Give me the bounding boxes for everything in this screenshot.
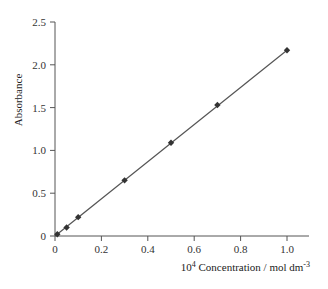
x-tick-label: 0.8 [234,243,248,255]
x-tick-label: 0.2 [95,243,109,255]
y-tick-label: 2.0 [32,59,46,71]
x-axis-label: 104 Concentration / mol dm-3 [181,260,310,273]
x-tick-label: 0.4 [141,243,155,255]
y-tick-label: 1.5 [32,102,46,114]
absorbance-chart: 00.51.01.52.02.5 00.20.40.60.81.0 Absorb… [0,0,328,289]
y-tick-label: 1.0 [32,144,46,156]
x-axis-ticks: 00.20.40.60.81.0 [52,236,294,255]
data-series [54,47,290,237]
y-tick-label: 0 [41,230,47,242]
y-axis-label: Absorbance [12,74,24,127]
x-tick-label: 0.6 [187,243,201,255]
axes [55,22,309,236]
x-tick-label: 1.0 [280,243,294,255]
y-axis-ticks: 00.51.01.52.02.5 [32,16,55,242]
x-tick-label: 0 [52,243,58,255]
y-tick-label: 2.5 [32,16,46,28]
y-tick-label: 0.5 [32,187,46,199]
